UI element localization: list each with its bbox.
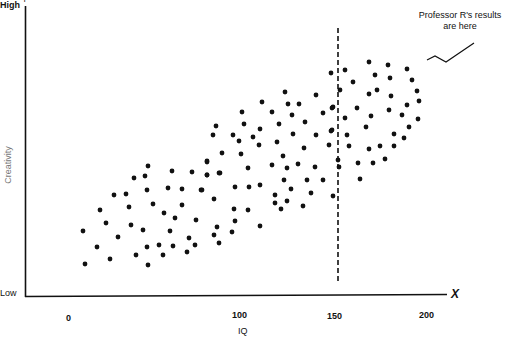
data-point <box>185 250 190 255</box>
annotation-line-1: Professor R's results <box>410 10 510 21</box>
data-point <box>392 132 397 137</box>
data-point <box>108 257 113 262</box>
data-points <box>81 60 422 268</box>
data-point <box>277 122 282 127</box>
data-point <box>112 193 117 198</box>
data-point <box>162 211 167 216</box>
x-tick-100: 100 <box>232 310 247 320</box>
data-point <box>98 208 103 213</box>
data-point <box>356 161 361 166</box>
data-point <box>402 136 407 141</box>
data-point <box>343 116 348 121</box>
data-point <box>313 165 318 170</box>
data-point <box>283 90 288 95</box>
data-point <box>233 219 238 224</box>
data-point <box>337 165 342 170</box>
data-point <box>387 108 392 113</box>
data-point <box>358 177 363 182</box>
data-point <box>305 178 310 183</box>
data-point <box>151 202 156 207</box>
data-point <box>230 230 235 235</box>
data-point <box>279 207 284 212</box>
data-point <box>281 154 286 159</box>
data-point <box>212 233 217 238</box>
data-point <box>296 162 301 167</box>
data-point <box>367 92 372 97</box>
y-axis-title: Creativity <box>3 135 13 195</box>
data-point <box>314 133 319 138</box>
zigzag-arrow-icon <box>427 43 474 62</box>
data-point <box>321 111 326 116</box>
data-point <box>237 139 242 144</box>
data-point <box>386 63 391 68</box>
y-low-label: Low <box>0 288 17 298</box>
data-point <box>282 178 287 183</box>
data-point <box>257 143 262 148</box>
data-point <box>364 125 369 130</box>
data-point <box>367 147 372 152</box>
data-point <box>355 106 360 111</box>
data-point <box>194 218 199 223</box>
data-point <box>351 80 356 85</box>
data-point <box>258 127 263 132</box>
x-tick-150: 150 <box>327 311 342 321</box>
data-point <box>141 228 146 233</box>
x-tick-0: 0 <box>66 313 71 323</box>
data-point <box>214 124 219 129</box>
data-point <box>375 88 380 93</box>
data-point <box>242 122 247 127</box>
data-point <box>187 236 192 241</box>
data-point <box>171 244 176 249</box>
data-point <box>180 203 185 208</box>
data-point <box>180 187 185 192</box>
data-point <box>246 166 251 171</box>
data-point <box>161 253 166 258</box>
data-point <box>309 191 314 196</box>
data-point <box>327 143 332 148</box>
data-point <box>145 245 150 250</box>
data-point <box>157 243 162 248</box>
y-high-label: High <box>0 0 20 10</box>
data-point <box>132 176 137 181</box>
data-point <box>369 114 374 119</box>
data-point <box>217 241 222 246</box>
data-point <box>302 146 307 151</box>
data-point <box>83 262 88 267</box>
data-point <box>417 99 422 104</box>
data-point <box>415 89 420 94</box>
data-point <box>329 71 334 76</box>
data-point <box>104 221 109 226</box>
data-point <box>371 161 376 166</box>
data-point <box>168 229 173 234</box>
data-point <box>134 253 139 258</box>
data-point <box>205 159 210 164</box>
data-point <box>212 197 217 202</box>
x-axis <box>25 295 447 297</box>
data-point <box>330 106 335 111</box>
data-point <box>127 205 132 210</box>
data-point <box>240 110 245 115</box>
data-point <box>95 245 100 250</box>
data-point <box>336 158 341 163</box>
data-point <box>193 243 198 248</box>
data-point <box>260 100 265 105</box>
data-point <box>290 113 295 118</box>
data-point <box>258 224 263 229</box>
data-point <box>246 208 251 213</box>
data-point <box>373 73 378 78</box>
data-point <box>285 199 290 204</box>
data-point <box>273 193 278 198</box>
data-point <box>220 151 225 156</box>
data-point <box>211 133 216 138</box>
data-point <box>81 229 86 234</box>
data-point <box>247 185 252 190</box>
data-point <box>205 173 210 178</box>
x-axis-letter: X <box>451 287 459 301</box>
data-point <box>215 225 220 230</box>
data-point <box>383 157 388 162</box>
data-point <box>367 60 372 65</box>
data-point <box>378 144 383 149</box>
data-point <box>143 174 148 179</box>
data-point <box>232 207 237 212</box>
data-point <box>173 216 178 221</box>
